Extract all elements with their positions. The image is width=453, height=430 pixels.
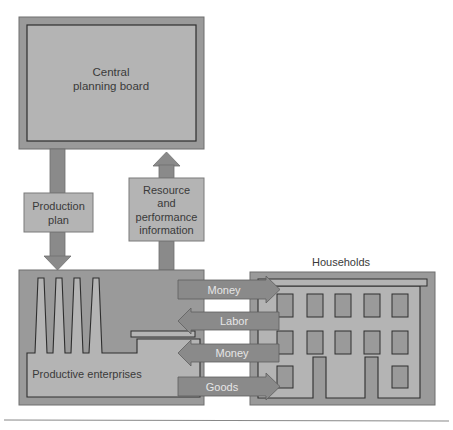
resource-label-line2: and [157,197,175,209]
central-planning-diagram: Central planning board Production plan R… [0,0,453,430]
flow-label: Money [215,347,249,359]
flow-label: Labor [220,315,248,327]
flow-arrow-money-to-households: Money [178,276,280,303]
central-planning-board: Central planning board [19,17,204,149]
flow-label: Goods [206,381,239,393]
central-board-label-line2: planning board [73,80,149,92]
resource-label-line3: performance [136,211,198,223]
roof-ledge [258,279,427,286]
production-plan-label-line1: Production [32,200,85,212]
households: Households [250,256,435,405]
enterprises-label: Productive enterprises [32,368,142,380]
production-plan-arrow: Production plan [24,149,93,270]
productive-enterprises: Productive enterprises [19,270,204,405]
flow-label: Money [207,284,241,296]
flow-arrow-labor-to-enterprises: Labor [178,308,279,334]
resource-label-line4: information [139,224,193,236]
central-board-label-line1: Central [92,66,129,78]
flow-arrow-money-to-enterprises: Money [178,340,279,366]
production-plan-box [24,193,93,232]
resource-label-line1: Resource [143,184,190,196]
production-plan-label-line2: plan [48,214,69,226]
resource-information-arrow: Resource and performance information [129,152,204,270]
flow-arrow-goods-to-households: Goods [178,373,280,400]
households-label: Households [312,256,371,268]
footer-divider [4,420,449,421]
